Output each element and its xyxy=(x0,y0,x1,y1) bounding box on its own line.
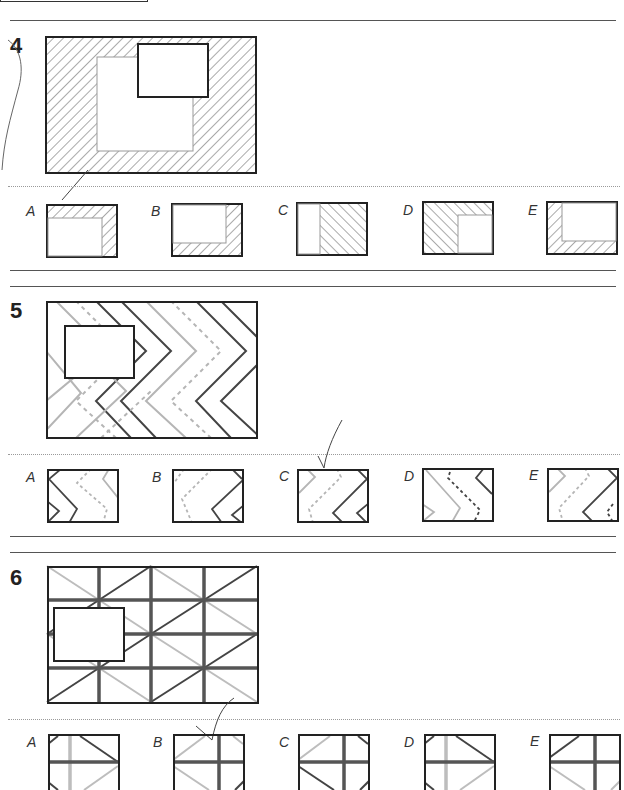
option-4e[interactable] xyxy=(546,201,618,255)
section-divider xyxy=(10,286,616,287)
option-6b[interactable] xyxy=(173,734,245,790)
pencil-mark xyxy=(0,30,80,210)
option-5e[interactable] xyxy=(547,468,619,522)
option-label-5d: D xyxy=(404,468,414,484)
option-6d[interactable] xyxy=(424,734,496,790)
option-label-5e: E xyxy=(529,467,538,483)
question-number-6: 6 xyxy=(10,565,22,591)
option-label-5c: C xyxy=(279,468,289,484)
option-4a[interactable] xyxy=(46,204,118,258)
section-divider xyxy=(10,552,616,553)
option-5b[interactable] xyxy=(172,469,244,523)
option-label-4c: C xyxy=(278,202,288,218)
option-6e[interactable] xyxy=(549,734,621,790)
section-divider xyxy=(10,20,616,21)
dotted-separator xyxy=(8,719,620,720)
option-5d[interactable] xyxy=(422,468,494,522)
option-4c[interactable] xyxy=(296,202,368,256)
option-label-6c: C xyxy=(279,734,289,750)
question-number-5: 5 xyxy=(10,298,22,324)
top-box-remnant xyxy=(0,0,148,2)
option-4b[interactable] xyxy=(171,203,243,257)
option-4d[interactable] xyxy=(422,201,494,255)
option-label-5a: A xyxy=(26,469,35,485)
option-label-6a: A xyxy=(27,734,36,750)
pencil-mark xyxy=(310,418,350,470)
option-label-6b: B xyxy=(153,734,162,750)
option-5c[interactable] xyxy=(297,469,369,523)
section-divider xyxy=(10,270,616,271)
question-5-pattern xyxy=(46,301,258,439)
option-label-6e: E xyxy=(530,733,539,749)
question-6-pattern xyxy=(47,566,259,704)
option-label-4b: B xyxy=(151,203,160,219)
section-divider xyxy=(10,536,616,537)
option-6a[interactable] xyxy=(48,734,120,790)
option-label-6d: D xyxy=(404,734,414,750)
option-5a[interactable] xyxy=(47,469,119,523)
option-label-4a: A xyxy=(26,203,35,219)
dotted-separator xyxy=(8,186,620,187)
option-label-4d: D xyxy=(403,202,413,218)
option-6c[interactable] xyxy=(298,734,370,790)
option-label-5b: B xyxy=(152,469,161,485)
option-label-4e: E xyxy=(528,202,537,218)
